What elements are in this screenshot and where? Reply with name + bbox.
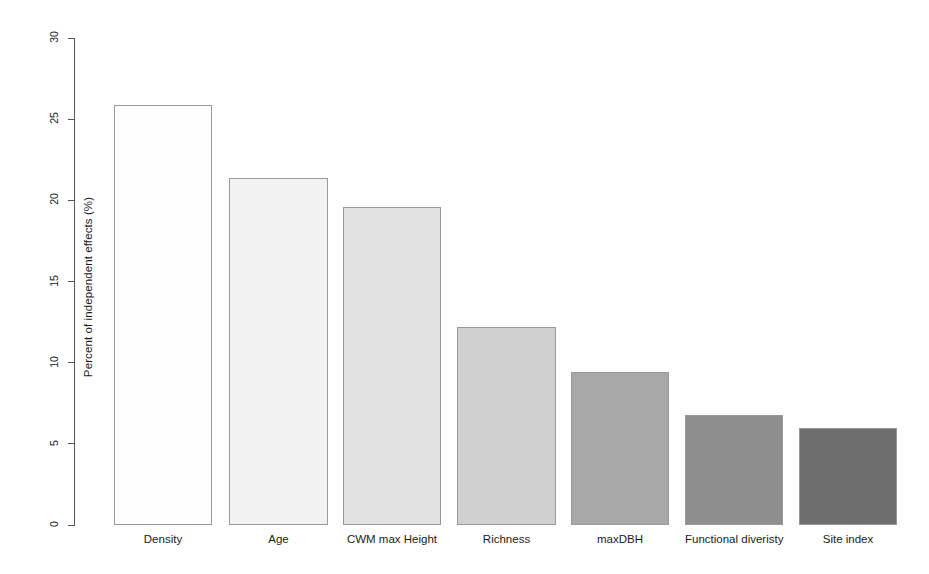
bar <box>799 428 897 525</box>
plot-area: DensityAgeCWM max HeightRichnessmaxDBHFu… <box>0 0 929 574</box>
x-axis-category-label: Richness <box>457 533 556 545</box>
x-axis-category-label: maxDBH <box>571 533 669 545</box>
bar <box>685 415 783 525</box>
x-axis-category-label: Density <box>114 533 212 545</box>
bar <box>457 327 556 525</box>
x-axis-category-label: CWM max Height <box>343 533 441 545</box>
x-axis-category-label: Functional diveristy <box>685 533 783 545</box>
bar <box>114 105 212 525</box>
x-axis-category-label: Site index <box>799 533 897 545</box>
bar <box>229 178 328 525</box>
bar <box>571 372 669 525</box>
x-axis-category-label: Age <box>229 533 328 545</box>
bar-chart: Percent of independent effects (%) 05101… <box>0 0 929 574</box>
bar <box>343 207 441 525</box>
